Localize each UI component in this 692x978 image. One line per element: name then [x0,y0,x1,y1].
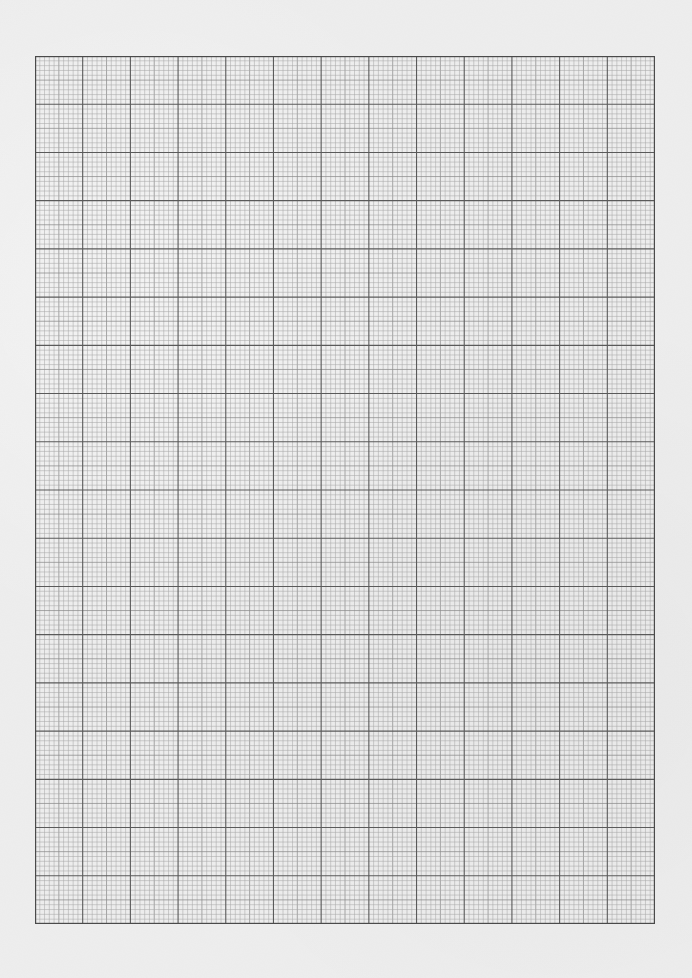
grid-lines [35,56,655,924]
graph-grid [35,56,655,924]
